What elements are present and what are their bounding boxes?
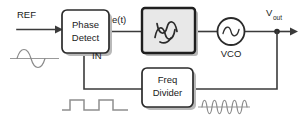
waveform-vco-sine-burst (198, 100, 250, 114)
label-in: IN (92, 50, 102, 61)
waveform-divider-square (62, 100, 128, 110)
block-freq-divider-line2: Divider (153, 87, 183, 98)
waveform-ref-sine (10, 50, 59, 68)
diagram-canvas: Phase Detect VCO Freq Divider (0, 0, 304, 126)
block-freq-divider[interactable]: Freq Divider (142, 68, 196, 110)
component-vco[interactable]: VCO (218, 18, 245, 59)
label-vout-subscript: out (273, 14, 282, 21)
block-loop-filter[interactable] (142, 8, 198, 56)
block-freq-divider-line1: Freq (158, 74, 178, 85)
label-vout-main: V (266, 7, 273, 18)
block-phase-detect-line1: Phase (72, 19, 99, 30)
block-phase-detect-line2: Detect (72, 32, 100, 43)
label-error-signal: e(t) (112, 14, 126, 25)
pll-block-diagram: Phase Detect VCO Freq Divider (0, 0, 304, 126)
label-ref: REF (17, 9, 36, 20)
block-phase-detect[interactable]: Phase Detect (62, 10, 112, 56)
vco-label: VCO (221, 48, 242, 59)
wire-ref-to-phase-detect (17, 26, 63, 34)
label-vout: V out (266, 7, 282, 21)
